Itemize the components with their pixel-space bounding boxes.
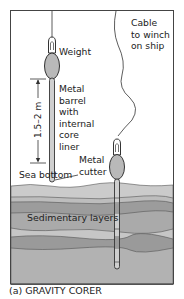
label-barrel-line2: barrel (59, 95, 94, 107)
figure-caption: (a) GRAVITY CORER (9, 285, 102, 296)
weight-icon (45, 53, 60, 79)
core-barrel (50, 78, 55, 182)
label-weight: Weight (59, 46, 91, 58)
label-metal-barrel: Metal barrel with internal core liner (59, 83, 94, 152)
core-barrel-right (115, 179, 120, 269)
gravity-corer-diagram: 1.5–2 m Weight Metal (0, 0, 184, 299)
label-metal-cutter: Metal cutter (79, 154, 107, 177)
label-cutter-line2: cutter (79, 166, 107, 178)
sediment-layer-7 (11, 247, 173, 284)
label-cable-line3: on ship (131, 40, 170, 52)
label-barrel-line6: liner (59, 141, 94, 153)
dimension-label: 1.5–2 m (33, 102, 43, 138)
label-cable-line2: to winch (131, 29, 170, 41)
label-cutter-line1: Metal (79, 154, 107, 166)
label-sedimentary-layers: Sedimentary layers (27, 212, 118, 224)
label-sea-bottom: Sea bottom (19, 169, 72, 181)
arrow-down-icon (36, 158, 40, 163)
label-barrel-line1: Metal (59, 83, 94, 95)
sediment-layers (11, 183, 173, 284)
label-barrel-line5: core (59, 129, 94, 141)
shackle-icon-right (114, 139, 121, 155)
weight-icon-right (110, 155, 125, 180)
label-cable-line1: Cable (131, 17, 170, 29)
shackle-icon (49, 37, 56, 53)
label-barrel-line3: with (59, 106, 94, 118)
label-cable: Cable to winch on ship (131, 17, 170, 52)
arrow-up-icon (36, 80, 40, 85)
label-barrel-line4: internal (59, 118, 94, 130)
